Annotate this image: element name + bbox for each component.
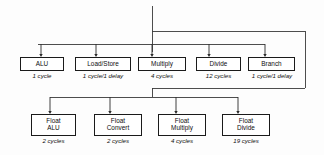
float-unit-label: Float Convert (107, 118, 130, 131)
integer-unit-latency-caption: 1 cycle/1 delay (240, 72, 304, 79)
execution-unit-diagram: ALULoad/StoreMultiplyDivideBranch Float … (0, 0, 324, 155)
integer-unit-box-divide[interactable]: Divide (196, 57, 241, 71)
integer-unit-box-alu[interactable]: ALU (20, 57, 64, 71)
integer-unit-label: ALU (36, 61, 49, 68)
integer-unit-label: Branch (261, 61, 281, 68)
integer-unit-box-branch[interactable]: Branch (248, 57, 295, 71)
float-unit-latency-caption: 2 cycles (94, 137, 142, 144)
float-unit-latency-caption: 2 cycles (29, 137, 78, 144)
float-unit-box-float-multiply[interactable]: Float Multiply (158, 114, 206, 136)
integer-unit-label: Load/Store (87, 61, 118, 68)
integer-unit-latency-caption: 1 cycle/1 delay (71, 72, 135, 79)
integer-unit-latency-caption: 1 cycle (20, 72, 64, 79)
float-unit-box-float-alu[interactable]: Float ALU (31, 114, 76, 136)
integer-unit-label: Divide (210, 61, 228, 68)
float-unit-label: Float ALU (46, 118, 60, 131)
integer-unit-label: Multiply (151, 61, 173, 68)
float-unit-box-float-divide[interactable]: Float Divide (222, 114, 270, 136)
float-unit-label: Float Divide (237, 118, 255, 131)
integer-unit-latency-caption: 4 cycles (138, 72, 186, 79)
float-unit-label: Float Multiply (171, 118, 193, 131)
float-unit-latency-caption: 19 cycles (220, 137, 272, 144)
float-unit-latency-caption: 4 cycles (158, 137, 206, 144)
integer-unit-box-load-store[interactable]: Load/Store (75, 57, 131, 71)
integer-unit-box-multiply[interactable]: Multiply (138, 57, 186, 71)
integer-unit-latency-caption: 12 cycles (194, 72, 243, 79)
float-unit-box-float-convert[interactable]: Float Convert (94, 114, 142, 136)
